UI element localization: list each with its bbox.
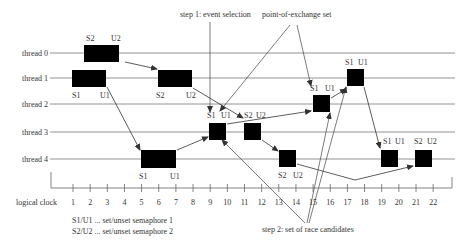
axis-tick-label: 8 <box>191 198 195 207</box>
arrow-t4-to-t3 <box>177 137 208 150</box>
label-u1: U1 <box>100 91 110 100</box>
axis-tick-label: 11 <box>241 198 249 207</box>
axis-tick-label: 22 <box>429 198 437 207</box>
thread-label-2: thread 2 <box>22 100 48 109</box>
block-t1-s1u1-b <box>347 69 364 86</box>
label-u1: U1 <box>325 84 335 93</box>
block-t3-s2u2 <box>244 123 261 140</box>
axis-tick-labels: 12345678910111213141516171819202122 <box>71 198 437 207</box>
arrow-t3-to-t4 <box>262 140 278 151</box>
axis-tick-label: 1 <box>71 198 75 207</box>
legend-line-2: S2/U2 ... set/unset semaphore 2 <box>72 227 173 236</box>
axis-tick-label: 17 <box>343 198 351 207</box>
axis-tick-label: 14 <box>292 198 300 207</box>
axis-tick-label: 18 <box>361 198 369 207</box>
axis-tick-label: 3 <box>105 198 109 207</box>
step2-annotation: step 2: set of race candidates <box>262 225 354 234</box>
semaphore-blocks <box>72 45 432 168</box>
axis-tick-label: 4 <box>122 198 126 207</box>
axis-label: logical clock <box>16 198 57 207</box>
thread-label-0: thread 0 <box>22 49 48 58</box>
label-u1: U1 <box>221 111 231 120</box>
axis-tick-label: 16 <box>326 198 334 207</box>
axis-tick-label: 5 <box>140 198 144 207</box>
block-t4-s1u1-b <box>381 150 398 167</box>
label-u2: U2 <box>186 91 196 100</box>
axis-tick-label: 10 <box>223 198 231 207</box>
block-t2-s1u1 <box>313 95 330 112</box>
label-s2: S2 <box>156 91 164 100</box>
point-of-exchange-annotation: point-of-exchange set <box>262 10 332 19</box>
arrow-t0-to-t1 <box>125 62 157 69</box>
arrow-t1-to-t4-b <box>364 87 380 148</box>
axis-tick-label: 9 <box>208 198 212 207</box>
poe-pointer-b <box>297 25 311 86</box>
block-t0-s2u2 <box>84 45 119 62</box>
label-s1: S1 <box>207 111 215 120</box>
axis-tick-label: 15 <box>309 198 317 207</box>
label-s2: S2 <box>278 171 286 180</box>
label-u2: U2 <box>427 137 437 146</box>
logical-clock-axis <box>51 172 452 192</box>
block-t1-s2u2 <box>158 70 192 87</box>
block-t4-s1u1 <box>141 150 176 168</box>
axis-tick-label: 20 <box>395 198 403 207</box>
block-t3-s1u1 <box>209 123 226 140</box>
label-u2: U2 <box>293 171 303 180</box>
label-s1: S1 <box>139 172 147 181</box>
thread-label-3: thread 3 <box>22 128 48 137</box>
thread-label-1: thread 1 <box>22 74 48 83</box>
race-detection-diagram: thread 0 thread 1 thread 2 thread 3 thre… <box>0 0 473 249</box>
label-s2: S2 <box>414 137 422 146</box>
thread-label-4: thread 4 <box>22 155 48 164</box>
axis-tick-label: 2 <box>88 198 92 207</box>
arrow-t1-to-t4 <box>107 87 140 150</box>
label-u1: U1 <box>395 137 405 146</box>
label-s2: S2 <box>244 111 252 120</box>
poe-pointer-a <box>220 25 290 111</box>
axis-tick-label: 7 <box>174 198 178 207</box>
label-s1: S1 <box>72 91 80 100</box>
label-s1: S1 <box>345 58 353 67</box>
label-s2: S2 <box>86 34 94 43</box>
legend-line-1: S1/U1 ... set/unset semaphore 1 <box>72 216 173 225</box>
block-t1-s1u1 <box>72 70 106 87</box>
axis-tick-label: 12 <box>258 198 266 207</box>
arrow-t3-to-t2 <box>227 111 311 124</box>
axis-tick-label: 19 <box>378 198 386 207</box>
axis-tick-label: 21 <box>412 198 420 207</box>
label-s1: S1 <box>383 137 391 146</box>
axis-tick-label: 6 <box>157 198 161 207</box>
label-s1: S1 <box>310 84 318 93</box>
block-t4-s2u2-b <box>415 150 432 167</box>
block-t4-s2u2-a <box>279 150 296 167</box>
label-u2: U2 <box>111 34 121 43</box>
label-u1: U1 <box>358 58 368 67</box>
axis-tick-label: 13 <box>275 198 283 207</box>
step1-annotation: step 1: event selection <box>180 10 251 19</box>
annotation-pointers <box>210 22 346 223</box>
label-u1: U1 <box>170 172 180 181</box>
